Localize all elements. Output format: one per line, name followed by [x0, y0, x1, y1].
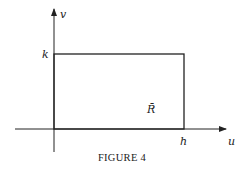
figure-diagram: v k R̄ h u FIGURE 4: [0, 0, 246, 172]
v-axis-label: v: [60, 8, 67, 21]
region-rectangle: [54, 54, 184, 129]
k-tick-label: k: [42, 48, 49, 61]
h-tick-label: h: [180, 135, 187, 148]
region-label: R̄: [146, 103, 155, 116]
figure-caption: FIGURE 4: [98, 152, 147, 163]
u-axis-label: u: [228, 135, 235, 148]
